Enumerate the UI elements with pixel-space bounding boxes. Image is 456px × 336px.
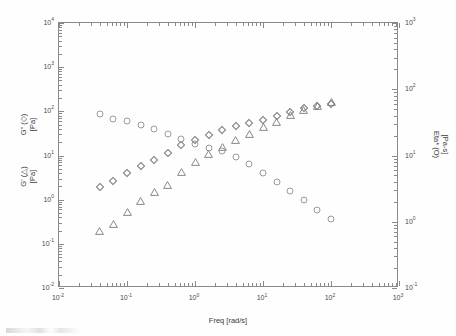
data-point-diamond xyxy=(313,101,321,109)
axis-tick xyxy=(215,23,216,26)
axis-tick xyxy=(188,283,189,286)
axis-tick xyxy=(59,209,62,210)
axis-tick xyxy=(388,23,389,26)
axis-tick xyxy=(392,222,397,223)
axis-tick xyxy=(59,25,62,26)
axis-tick xyxy=(180,23,181,26)
axis-tick xyxy=(59,261,62,262)
y-left-tick-label: 10-2 xyxy=(26,284,54,291)
data-point-diamond xyxy=(272,112,280,120)
axis-tick xyxy=(59,204,62,205)
data-point-circle xyxy=(110,115,117,122)
data-point-triangle xyxy=(109,214,118,232)
axis-tick xyxy=(394,58,397,59)
y-right-axis-unit: [Pa-s] xyxy=(441,115,450,175)
data-point-diamond xyxy=(177,141,185,149)
y-left-axis-title-gdoubleprime: G" (◇) xyxy=(19,95,28,155)
axis-tick xyxy=(59,275,62,276)
axis-tick xyxy=(59,129,62,130)
y-left-tick-label: 104 xyxy=(26,19,54,26)
axis-tick xyxy=(59,90,62,91)
y-left-tick-label: 100 xyxy=(26,195,54,202)
data-point-triangle xyxy=(163,175,172,193)
axis-tick xyxy=(394,228,397,229)
axis-tick xyxy=(59,257,62,258)
axis-tick xyxy=(311,23,312,26)
axis-tick xyxy=(59,156,64,157)
axis-tick xyxy=(184,283,185,286)
x-tick-label: 10-2 xyxy=(52,294,64,301)
axis-tick xyxy=(79,283,80,286)
axis-tick xyxy=(316,283,317,286)
axis-tick xyxy=(394,96,397,97)
y-left-tick-label: 10-1 xyxy=(26,239,54,246)
axis-tick xyxy=(384,283,385,286)
axis-tick xyxy=(184,23,185,26)
axis-tick xyxy=(59,231,62,232)
axis-tick xyxy=(320,23,321,26)
data-point-triangle xyxy=(272,112,281,130)
axis-tick xyxy=(394,232,397,233)
axis-tick xyxy=(252,283,253,286)
axis-tick xyxy=(316,23,317,26)
axis-tick xyxy=(59,80,62,81)
axis-tick xyxy=(394,166,397,167)
axis-tick xyxy=(159,283,160,286)
axis-tick xyxy=(384,23,385,26)
figure-canvas: G' (△) [Pa] G" (◇) [Pa] Eta* (O) [Pa-s] … xyxy=(0,0,456,336)
axis-tick xyxy=(388,283,389,286)
axis-tick xyxy=(311,283,312,286)
axis-tick xyxy=(248,283,249,286)
axis-tick xyxy=(331,281,332,286)
data-point-circle xyxy=(137,121,144,128)
axis-tick xyxy=(394,248,397,249)
data-point-circle xyxy=(164,131,171,138)
data-point-circle xyxy=(273,178,280,185)
axis-tick xyxy=(379,283,380,286)
axis-tick xyxy=(175,283,176,286)
data-point-triangle xyxy=(136,191,145,209)
axis-tick xyxy=(392,23,397,24)
axis-tick xyxy=(394,225,397,226)
y-right-tick-label: 103 xyxy=(405,19,416,26)
axis-tick xyxy=(59,251,62,252)
axis-tick xyxy=(394,26,397,27)
axis-tick xyxy=(159,23,160,26)
data-point-circle xyxy=(124,118,131,125)
axis-tick xyxy=(59,27,62,28)
axis-tick xyxy=(394,29,397,30)
data-point-circle xyxy=(260,169,267,176)
axis-tick xyxy=(59,30,62,31)
axis-tick xyxy=(379,23,380,26)
axis-tick xyxy=(59,248,62,249)
x-axis-title: Freq [rad/s] xyxy=(0,316,456,325)
axis-tick xyxy=(394,175,397,176)
axis-tick xyxy=(120,283,121,286)
axis-tick xyxy=(59,142,62,143)
data-point-circle xyxy=(287,188,294,195)
x-tick-label: 10-1 xyxy=(120,294,132,301)
data-point-circle xyxy=(246,160,253,167)
axis-tick xyxy=(188,23,189,26)
axis-tick xyxy=(372,23,373,26)
axis-tick xyxy=(324,23,325,26)
data-point-triangle xyxy=(123,202,132,220)
axis-tick xyxy=(107,23,108,26)
axis-tick xyxy=(243,283,244,286)
axis-tick xyxy=(59,288,64,289)
axis-tick xyxy=(263,281,264,286)
y-left-axis-unit-gdoubleprime: [Pa] xyxy=(28,95,37,155)
axis-tick xyxy=(394,256,397,257)
axis-tick xyxy=(59,213,62,214)
y-right-tick-label: 102 xyxy=(405,85,416,92)
axis-tick xyxy=(59,74,62,75)
axis-tick xyxy=(394,43,397,44)
axis-tick xyxy=(59,116,62,117)
data-point-diamond xyxy=(259,116,267,124)
axis-tick xyxy=(59,71,62,72)
axis-tick xyxy=(59,36,62,37)
axis-tick xyxy=(59,246,62,247)
axis-tick xyxy=(59,46,62,47)
axis-tick xyxy=(392,283,393,286)
axis-tick xyxy=(59,158,62,159)
